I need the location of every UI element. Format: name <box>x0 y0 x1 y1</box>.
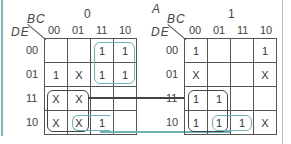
row-var-label: DE <box>151 25 170 39</box>
col-header: 01 <box>72 24 84 36</box>
cell <box>231 39 254 63</box>
row-header: 10 <box>26 116 38 128</box>
cell: X <box>254 63 277 87</box>
group-loop-teal-partial <box>72 115 110 131</box>
row-var-label: DE <box>11 25 30 39</box>
a-var-label: A <box>152 2 161 16</box>
cell <box>45 39 68 63</box>
cell: 1 <box>185 39 208 63</box>
col-header: 10 <box>260 24 272 36</box>
row-header: 10 <box>166 116 178 128</box>
row-header: 00 <box>26 44 38 56</box>
cell: X <box>254 111 277 135</box>
cell <box>208 63 231 87</box>
left-border-line <box>1 0 3 136</box>
row-header: 00 <box>166 44 178 56</box>
a-value-label: 1 <box>228 7 235 21</box>
cell: 1 <box>254 39 277 63</box>
cell <box>91 87 114 111</box>
col-header: 01 <box>213 24 225 36</box>
cell <box>231 87 254 111</box>
cell <box>114 87 137 111</box>
col-header: 11 <box>237 24 248 36</box>
col-header: 00 <box>189 24 201 36</box>
row-header: 11 <box>26 92 37 104</box>
cell: 1 <box>45 63 68 87</box>
col-var-label: BC <box>167 12 186 26</box>
cell: X <box>185 63 208 87</box>
group-loop-teal <box>212 115 252 131</box>
row-header: 01 <box>166 68 178 80</box>
cell <box>68 39 91 63</box>
col-header: 10 <box>119 24 131 36</box>
col-header: 00 <box>48 24 60 36</box>
right-border-line <box>282 0 283 144</box>
col-header: 11 <box>96 24 107 36</box>
row-header: 11 <box>166 92 177 104</box>
col-var-label: BC <box>27 12 46 26</box>
cell <box>254 87 277 111</box>
cell <box>231 63 254 87</box>
a-value-label: 0 <box>84 7 91 21</box>
group-loop-teal <box>94 42 135 84</box>
cell: X <box>68 63 91 87</box>
row-header: 01 <box>26 68 38 80</box>
cell <box>208 39 231 63</box>
